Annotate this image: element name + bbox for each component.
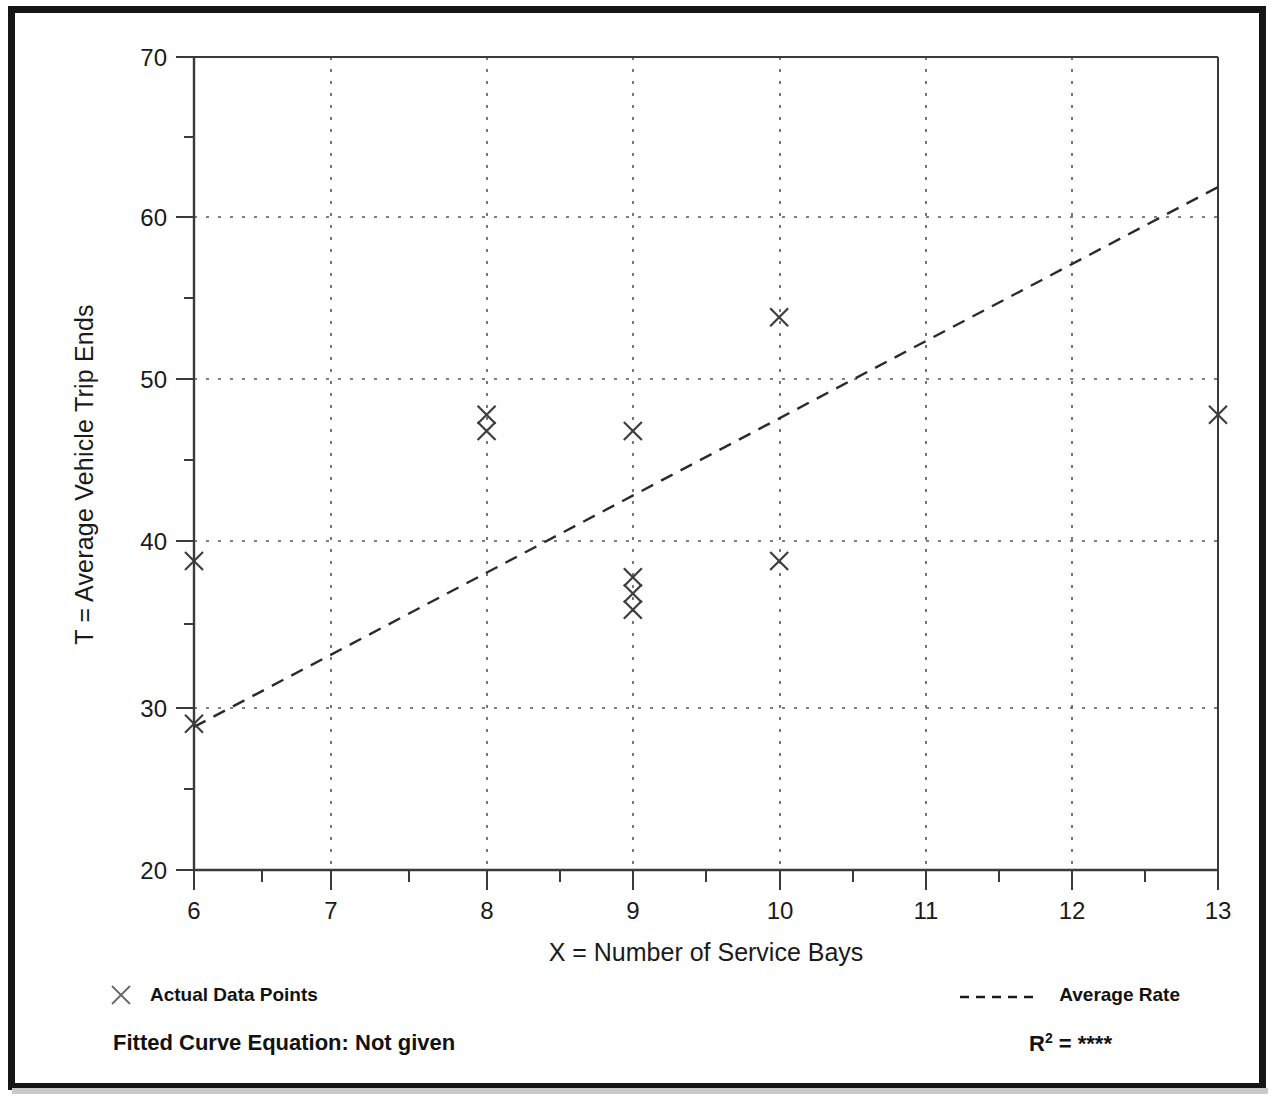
dashed-line-icon (959, 989, 1037, 1001)
x-tick-label: 11 (914, 897, 939, 924)
r-squared-value: R2 = **** (1029, 1030, 1112, 1057)
r-squared-stars: **** (1078, 1031, 1112, 1056)
x-tick-label: 10 (767, 897, 794, 924)
legend-item-actual-data-points[interactable]: Actual Data Points (108, 980, 318, 1010)
r-squared-symbol: R (1029, 1031, 1045, 1056)
x-tick-label: 12 (1059, 897, 1086, 924)
y-tick-label: 30 (140, 695, 167, 722)
y-axis-title: T = Average Vehicle Trip Ends (70, 195, 99, 755)
grid-vertical (331, 57, 1072, 870)
x-tick-label: 7 (324, 897, 337, 924)
legend-label-actual-data-points: Actual Data Points (150, 984, 318, 1006)
chart-legend: Actual Data Points Average Rate (108, 980, 1198, 1010)
data-point-x-marker (478, 406, 496, 424)
y-tick-label: 70 (140, 44, 167, 71)
x-tick-label: 6 (187, 897, 200, 924)
y-axis-ticks (176, 57, 194, 870)
x-axis-ticks (194, 870, 1218, 890)
y-tick-label: 60 (140, 204, 167, 231)
x-marker-icon (108, 982, 134, 1008)
data-point-markers (185, 308, 1227, 732)
x-tick-label: 8 (480, 897, 493, 924)
data-point-x-marker (624, 422, 642, 440)
r-squared-equals: = (1053, 1031, 1078, 1056)
grid-horizontal (194, 217, 1218, 708)
y-tick-labels: 70 60 50 40 30 20 (140, 44, 167, 884)
x-axis-title: X = Number of Service Bays (194, 938, 1218, 967)
x-tick-label: 13 (1205, 897, 1232, 924)
data-point-x-marker (624, 601, 642, 619)
y-tick-label: 20 (140, 857, 167, 884)
axis-spines (194, 57, 1218, 870)
plot-area: 70 60 50 40 30 20 6 7 8 9 10 11 12 13 (0, 0, 1280, 1106)
y-tick-label: 50 (140, 366, 167, 393)
trend-line-segment (194, 187, 1218, 727)
fitted-curve-equation: Fitted Curve Equation: Not given (113, 1030, 455, 1056)
r-squared-exponent: 2 (1045, 1030, 1053, 1046)
data-point-x-marker (624, 568, 642, 586)
data-point-x-marker (770, 552, 788, 570)
y-tick-label: 40 (140, 528, 167, 555)
figure-page: 70 60 50 40 30 20 6 7 8 9 10 11 12 13 (0, 0, 1280, 1106)
x-tick-labels: 6 7 8 9 10 11 12 13 (187, 897, 1231, 924)
average-rate-trend-line (194, 187, 1218, 727)
chart-footer: Fitted Curve Equation: Not given R2 = **… (108, 1030, 1198, 1070)
legend-item-average-rate[interactable]: Average Rate (959, 980, 1180, 1010)
data-point-x-marker (478, 422, 496, 440)
x-tick-label: 9 (626, 897, 639, 924)
data-point-x-marker (770, 308, 788, 326)
legend-label-average-rate: Average Rate (1059, 984, 1180, 1006)
